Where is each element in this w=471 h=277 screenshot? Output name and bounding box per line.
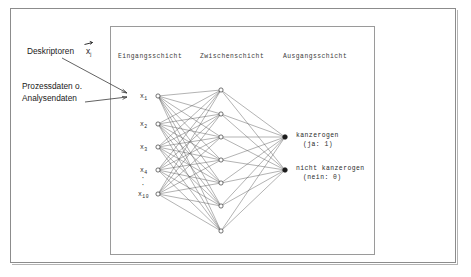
hidden-node-7 xyxy=(219,229,223,233)
output-labels: kanzerogen (ja: 1) nicht kanzerogen (nei… xyxy=(296,132,365,181)
hidden-node-3 xyxy=(219,135,223,139)
input-label-4: x4 xyxy=(140,167,148,175)
output-label-kanzerogen: kanzerogen xyxy=(296,132,339,139)
edges-hidden-output xyxy=(221,90,285,231)
leader-line-process-data xyxy=(85,97,127,102)
output-node-nicht-kanzerogen xyxy=(283,168,288,173)
hidden-node-4 xyxy=(219,158,223,162)
layer-heading-hidden: Zwischenschicht xyxy=(200,53,264,60)
input-node-10 xyxy=(156,192,160,196)
network-diagram: Eingangsschicht Zwischenschicht Ausgangs… xyxy=(0,0,471,277)
input-ellipsis-dot-1: · xyxy=(141,175,145,182)
output-nodes xyxy=(283,135,288,173)
figure-canvas: Eingangsschicht Zwischenschicht Ausgangs… xyxy=(0,0,471,277)
input-node-4 xyxy=(156,168,160,172)
hidden-node-1 xyxy=(219,88,223,92)
input-labels: x1 x2 x3 x4 · · x10 xyxy=(138,93,149,199)
hidden-node-6 xyxy=(219,204,223,208)
output-value-kanzerogen: (ja: 1) xyxy=(303,141,333,148)
input-node-3 xyxy=(156,145,160,149)
annotation-descriptors-symbol: xj xyxy=(86,46,91,57)
layer-heading-input: Eingangsschicht xyxy=(118,53,182,60)
layer-heading-output: Ausgangsschicht xyxy=(283,53,347,60)
output-node-kanzerogen xyxy=(283,135,288,140)
input-label-1: x1 xyxy=(140,93,148,101)
input-nodes xyxy=(156,94,160,196)
edges-input-hidden xyxy=(158,90,221,231)
input-ellipsis-dot-2: · xyxy=(141,182,145,189)
hidden-node-2 xyxy=(219,112,223,116)
annotation-descriptors-label: Deskriptoren xyxy=(27,46,74,56)
input-label-3: x3 xyxy=(140,144,148,152)
output-value-nicht-kanzerogen: (nein: 0) xyxy=(303,174,342,181)
hidden-node-5 xyxy=(219,181,223,185)
input-label-10: x10 xyxy=(138,191,149,199)
input-node-1 xyxy=(156,94,160,98)
input-node-2 xyxy=(156,122,160,126)
output-label-nicht-kanzerogen: nicht kanzerogen xyxy=(296,165,365,172)
annotation-process-data-line2: Analysendaten xyxy=(22,93,77,103)
input-label-2: x2 xyxy=(140,121,148,129)
hidden-nodes xyxy=(219,88,223,233)
annotation-process-data-line1: Prozessdaten o. xyxy=(22,81,82,91)
